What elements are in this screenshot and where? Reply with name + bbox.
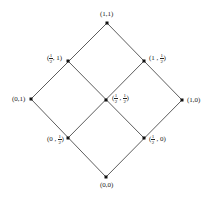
- lattice-nodes: [30, 22, 184, 179]
- label-half-1: (12, 1): [47, 53, 62, 64]
- label-text: ): [127, 94, 129, 102]
- label-0-0: (0,0): [100, 182, 113, 189]
- node-half-1: [67, 60, 70, 63]
- label-text: (1 ,: [149, 54, 160, 62]
- node-1-half: [143, 60, 146, 63]
- label-1-0: (1,0): [187, 97, 200, 104]
- label-text: (0 ,: [47, 135, 58, 143]
- label-1-1: (1,1): [100, 11, 113, 18]
- node-1-1: [106, 22, 109, 25]
- node-half-half: [105, 99, 108, 102]
- label-1-half: (1 , 12): [149, 53, 166, 64]
- label-text: (1,0): [187, 96, 200, 104]
- label-half-0: (12 , 0): [149, 134, 166, 145]
- node-0-1: [30, 98, 33, 101]
- node-0-half: [67, 137, 70, 140]
- label-text: ): [62, 135, 64, 143]
- label-text: , 1): [53, 54, 62, 62]
- node-0-0: [105, 176, 108, 179]
- lattice-diagram: [0, 0, 214, 198]
- label-text: (0,0): [100, 181, 113, 189]
- label-text: (0,1): [12, 95, 25, 103]
- label-0-1: (0,1): [12, 96, 25, 103]
- label-text: ): [164, 54, 166, 62]
- node-1-0: [181, 99, 184, 102]
- label-text: (1,1): [100, 10, 113, 18]
- label-0-half: (0 , 12): [47, 134, 64, 145]
- node-half-0: [143, 137, 146, 140]
- label-half-half: (12 , 12): [112, 93, 129, 104]
- label-text: , 0): [155, 135, 166, 143]
